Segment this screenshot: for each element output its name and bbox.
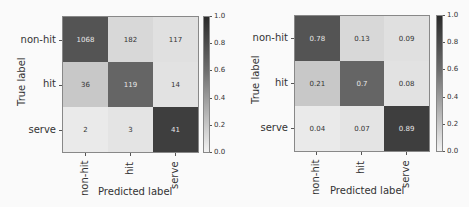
x-tick bbox=[175, 153, 176, 156]
y-tick-label: serve bbox=[6, 124, 56, 135]
matrix-cell: 0.89 bbox=[384, 106, 429, 151]
colorbar-tick bbox=[443, 42, 445, 43]
colorbar-tick-label: 0.0 bbox=[447, 147, 458, 155]
confusion-matrix-normalized: True label non-hit hit serve 0.78 0.13 0… bbox=[230, 0, 464, 207]
matrix-cell: 0.13 bbox=[340, 16, 385, 61]
colorbar-tick-label: 0.6 bbox=[214, 66, 225, 74]
x-tick-label: serve bbox=[169, 161, 180, 189]
y-tick-label: hit bbox=[6, 78, 56, 89]
colorbar bbox=[203, 16, 210, 153]
x-tick bbox=[130, 153, 131, 156]
matrix-cell: 3 bbox=[108, 107, 153, 152]
colorbar-tick bbox=[443, 151, 445, 152]
matrix-cell: 117 bbox=[153, 17, 198, 62]
y-tick-label: serve bbox=[238, 122, 288, 133]
matrix-cell: 0.7 bbox=[340, 61, 385, 106]
matrix-cell: 41 bbox=[153, 107, 198, 152]
matrix-cell: 0.78 bbox=[295, 16, 340, 61]
colorbar-tick bbox=[443, 97, 445, 98]
confusion-matrix-counts: True label non-hit hit serve 1068 182 11… bbox=[0, 0, 234, 207]
colorbar-tick bbox=[210, 70, 212, 71]
x-tick-label: non-hit bbox=[310, 160, 321, 195]
x-tick bbox=[316, 152, 317, 155]
colorbar-tick-label: 0.0 bbox=[214, 148, 225, 156]
matrix-cell: 0.21 bbox=[295, 61, 340, 106]
colorbar-tick-label: 0.2 bbox=[214, 121, 225, 129]
colorbar-tick bbox=[210, 43, 212, 44]
x-tick-label: non-hit bbox=[79, 161, 90, 196]
matrix-cell: 0.04 bbox=[295, 106, 340, 151]
colorbar-tick-label: 1.0 bbox=[447, 11, 458, 19]
y-tick-label: non-hit bbox=[6, 34, 56, 45]
matrix-cell: 36 bbox=[63, 62, 108, 107]
colorbar-tick-label: 0.6 bbox=[447, 65, 458, 73]
x-tick-label: hit bbox=[355, 161, 366, 174]
matrix-cell: 0.07 bbox=[340, 106, 385, 151]
colorbar-tick bbox=[443, 124, 445, 125]
colorbar-tick bbox=[210, 125, 212, 126]
x-tick bbox=[361, 152, 362, 155]
matrix-cell: 0.08 bbox=[384, 61, 429, 106]
matrix-cell: 119 bbox=[108, 62, 153, 107]
colorbar-tick bbox=[443, 69, 445, 70]
colorbar-tick-label: 0.4 bbox=[214, 94, 225, 102]
matrix-cell: 0.09 bbox=[384, 16, 429, 61]
x-axis-title: Predicted label bbox=[330, 185, 404, 196]
y-tick-label: hit bbox=[238, 77, 288, 88]
colorbar bbox=[436, 15, 443, 152]
x-tick-label: hit bbox=[124, 162, 135, 175]
matrix-cell: 14 bbox=[153, 62, 198, 107]
colorbar-tick bbox=[210, 152, 212, 153]
colorbar-tick-label: 0.2 bbox=[447, 120, 458, 128]
colorbar-tick-label: 0.4 bbox=[447, 93, 458, 101]
x-axis-title: Predicted label bbox=[98, 186, 172, 197]
colorbar-tick-label: 0.8 bbox=[214, 39, 225, 47]
colorbar-tick bbox=[210, 98, 212, 99]
colorbar-tick-label: 0.8 bbox=[447, 38, 458, 46]
colorbar-tick-label: 1.0 bbox=[214, 12, 225, 20]
matrix-cell: 182 bbox=[108, 17, 153, 62]
matrix-grid: 1068 182 117 36 119 14 2 3 41 bbox=[62, 16, 199, 153]
colorbar-tick bbox=[443, 15, 445, 16]
y-tick-label: non-hit bbox=[238, 32, 288, 43]
matrix-cell: 1068 bbox=[63, 17, 108, 62]
matrix-grid: 0.78 0.13 0.09 0.21 0.7 0.08 0.04 0.07 0… bbox=[294, 15, 430, 152]
matrix-cell: 2 bbox=[63, 107, 108, 152]
x-tick bbox=[406, 152, 407, 155]
x-tick bbox=[85, 153, 86, 156]
x-tick-label: serve bbox=[400, 160, 411, 188]
colorbar-tick bbox=[210, 16, 212, 17]
